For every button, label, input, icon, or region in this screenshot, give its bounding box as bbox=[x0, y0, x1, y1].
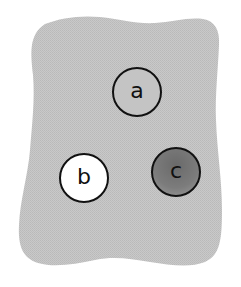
node-b-label: b bbox=[77, 166, 91, 188]
diagram-canvas: a b c bbox=[0, 0, 241, 287]
node-a-circle: a bbox=[112, 67, 162, 117]
node-c-label: c bbox=[170, 160, 182, 182]
node-c-circle: c bbox=[151, 147, 201, 197]
node-b-circle: b bbox=[59, 153, 109, 203]
node-a-label: a bbox=[130, 80, 143, 102]
gray-region-blob bbox=[0, 0, 241, 287]
